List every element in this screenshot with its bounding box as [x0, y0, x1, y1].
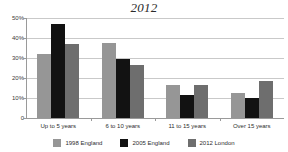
- legend-label: 1998 England: [65, 139, 102, 147]
- x-axis-category-label: Over 15 years: [220, 121, 285, 133]
- y-axis-tick-label: 50%: [0, 15, 24, 21]
- bar-groups: [26, 18, 284, 118]
- chart-legend: 1998 England2005 England2012 London: [0, 136, 288, 150]
- bar[interactable]: [259, 81, 273, 118]
- legend-item[interactable]: 2012 London: [188, 139, 235, 147]
- bar-group: [220, 18, 285, 118]
- y-axis-tick-label: 0: [0, 115, 24, 121]
- legend-swatch-icon: [53, 139, 61, 147]
- bar[interactable]: [51, 24, 65, 118]
- bar[interactable]: [102, 43, 116, 118]
- bar-group: [26, 18, 91, 118]
- bar[interactable]: [231, 93, 245, 118]
- legend-item[interactable]: 1998 England: [53, 139, 102, 147]
- y-axis-tick-label: 40%: [0, 35, 24, 41]
- y-axis: 010%20%30%40%50%: [0, 0, 24, 152]
- bar-chart: 2012 010%20%30%40%50% Up to 5 years6 to …: [0, 0, 288, 152]
- x-axis-category-label: 6 to 10 years: [91, 121, 156, 133]
- bar[interactable]: [37, 54, 51, 118]
- x-axis-category-label: 11 to 15 years: [155, 121, 220, 133]
- bar[interactable]: [130, 65, 144, 118]
- legend-swatch-icon: [188, 139, 196, 147]
- bar-group: [155, 18, 220, 118]
- bar[interactable]: [65, 44, 79, 118]
- bar-group: [91, 18, 156, 118]
- y-axis-tick-label: 20%: [0, 75, 24, 81]
- bar[interactable]: [180, 95, 194, 118]
- legend-label: 2012 London: [200, 139, 235, 147]
- legend-swatch-icon: [120, 139, 128, 147]
- bar[interactable]: [245, 98, 259, 118]
- x-axis-tick-mark: [155, 118, 156, 121]
- x-axis-tick-mark: [220, 118, 221, 121]
- bar[interactable]: [194, 85, 208, 118]
- x-axis-tick-mark: [91, 118, 92, 121]
- bar[interactable]: [166, 85, 180, 118]
- bar[interactable]: [116, 59, 130, 118]
- legend-item[interactable]: 2005 England: [120, 139, 169, 147]
- chart-title: 2012: [0, 0, 288, 16]
- legend-label: 2005 England: [132, 139, 169, 147]
- x-axis-category-label: Up to 5 years: [26, 121, 91, 133]
- y-axis-tick-label: 10%: [0, 95, 24, 101]
- y-axis-tick-label: 30%: [0, 55, 24, 61]
- x-axis-labels: Up to 5 years6 to 10 years11 to 15 years…: [26, 121, 284, 133]
